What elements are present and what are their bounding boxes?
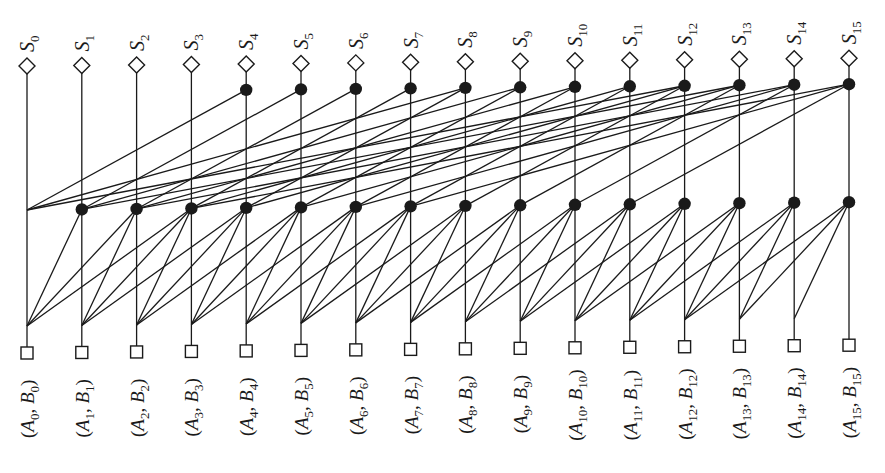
sum-label-name: S: [454, 38, 476, 48]
level1-prefix-node-2: [130, 203, 142, 215]
input-label-8: (A8, B8): [455, 375, 480, 433]
input-label-part: B: [291, 389, 312, 401]
level1-wire-8-to-5: [301, 206, 465, 324]
input-label-part: ): [401, 376, 423, 382]
input-label-part: ): [236, 378, 258, 384]
sum-label-index: 14: [794, 21, 809, 35]
sum-label-8: S8: [454, 31, 480, 48]
sum-label-index: 2: [137, 34, 152, 41]
sum-label-6: S6: [345, 32, 371, 49]
sum-label-name: S: [783, 35, 805, 45]
sum-label-13: S13: [728, 22, 754, 45]
input-label-2: (A2, B2): [127, 379, 152, 437]
input-label-part: A: [839, 420, 860, 434]
operand-input-node-2: [131, 346, 143, 358]
input-label-part: A: [72, 419, 93, 433]
sum-label-name: S: [838, 34, 860, 44]
sum-output-node-9: [512, 53, 528, 69]
input-label-11: (A11, B11): [620, 370, 645, 440]
level1-wire-4-to-1: [82, 208, 246, 326]
input-label-part: ,: [729, 399, 750, 409]
sum-label-index: 4: [246, 33, 261, 40]
level1-wire-13-to-10: [575, 203, 739, 321]
input-label-part: B: [729, 387, 750, 399]
input-label-part: ,: [72, 404, 93, 414]
input-label-part: ,: [17, 404, 38, 414]
sum-label-5: S5: [290, 33, 316, 50]
operand-input-node-14: [788, 340, 800, 352]
input-label-part: 11: [630, 410, 645, 423]
input-label-part: 15: [849, 373, 864, 386]
input-label-part: ,: [455, 400, 476, 410]
level1-prefix-node-3: [185, 202, 197, 214]
input-label-part: A: [236, 418, 257, 432]
level1-wire-15-to-14: [794, 202, 849, 319]
input-label-part: B: [127, 391, 148, 403]
sum-label-name: S: [728, 35, 750, 45]
sum-output-node-13: [731, 51, 747, 67]
sum-label-name: S: [290, 39, 312, 49]
input-label-part: A: [675, 421, 696, 435]
input-label-part: 13: [739, 374, 754, 387]
level1-wire-3-to-0: [27, 208, 191, 326]
operand-input-node-13: [733, 340, 745, 352]
sum-label-2: S2: [126, 34, 152, 51]
sum-label-name: S: [126, 41, 148, 51]
input-label-part: A: [346, 417, 367, 431]
level1-prefix-node-13: [733, 197, 745, 209]
sum-label-index: 13: [739, 22, 754, 35]
level1-wire-15-to-12: [685, 202, 849, 320]
sum-label-name: S: [180, 40, 202, 50]
input-label-part: A: [565, 422, 586, 436]
sum-label-name: S: [16, 42, 38, 52]
operand-input-node-1: [76, 346, 88, 358]
input-label-part: 14: [794, 373, 809, 387]
sum-label-3: S3: [180, 34, 206, 51]
sum-output-node-5: [293, 55, 309, 71]
level1-prefix-node-10: [569, 199, 581, 211]
operand-input-node-3: [185, 345, 197, 357]
sum-label-name: S: [400, 38, 422, 48]
input-label-part: ,: [401, 400, 422, 410]
operand-input-node-7: [405, 343, 417, 355]
sum-output-node-3: [183, 56, 199, 72]
level1-wire-11-to-8: [465, 204, 629, 322]
sum-label-index: 7: [411, 31, 426, 38]
input-label-part: A: [784, 420, 805, 434]
sum-output-node-10: [567, 53, 583, 69]
input-label-part: ): [839, 367, 861, 373]
level1-prefix-node-15: [843, 196, 855, 208]
operand-input-node-10: [569, 342, 581, 354]
sum-label-index: 6: [356, 32, 371, 39]
input-label-10: (A10, B10): [565, 369, 590, 440]
sum-label-11: S11: [619, 24, 645, 47]
level2-fan-in-wires: [27, 84, 849, 210]
operand-input-node-0: [21, 347, 33, 359]
level2-prefix-node-8: [459, 82, 471, 94]
level1-prefix-node-12: [678, 198, 690, 210]
sum-output-node-8: [457, 54, 473, 70]
operand-input-node-12: [679, 341, 691, 353]
input-label-part: ): [675, 368, 697, 374]
level1-prefix-node-4: [240, 202, 252, 214]
level1-prefix-node-9: [514, 199, 526, 211]
sum-label-14: S14: [783, 21, 809, 45]
level2-prefix-node-4: [240, 84, 252, 96]
level1-wire-14-to-11: [630, 203, 794, 321]
input-label-part: A: [510, 415, 531, 429]
operand-input-node-8: [459, 343, 471, 355]
level1-wire-12-to-9: [520, 204, 684, 322]
sum-label-index: 11: [630, 24, 645, 37]
input-label-part: 12: [685, 409, 700, 422]
sum-label-name: S: [345, 39, 367, 49]
input-label-part: B: [784, 386, 805, 398]
sum-output-node-7: [403, 54, 419, 70]
sum-label-index: 15: [849, 21, 864, 34]
level1-prefix-node-11: [624, 198, 636, 210]
sum-label-name: S: [619, 36, 641, 46]
input-label-part: ): [181, 378, 203, 384]
sum-output-node-4: [238, 56, 254, 72]
input-label-part: B: [620, 388, 641, 400]
sum-label-0: S0: [16, 36, 42, 53]
sum-label-1: S1: [71, 35, 97, 52]
